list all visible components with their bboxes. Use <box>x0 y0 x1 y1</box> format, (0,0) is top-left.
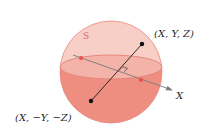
equator-disk <box>60 55 162 79</box>
point-lower-dot <box>89 99 93 103</box>
point-upper-label: (X, Y, Z) <box>154 28 194 39</box>
x-axis-arrow-icon <box>166 86 174 91</box>
axis-intersection-dot-right <box>139 78 143 82</box>
point-lower-label: (X, −Y, −Z) <box>15 112 72 123</box>
point-upper-dot <box>140 42 144 46</box>
axis-intersection-dot-left <box>79 56 83 60</box>
x-axis-label: X <box>175 90 184 101</box>
sphere-label: S <box>83 29 89 41</box>
sphere-reflection-diagram: S (X, Y, Z) (X, −Y, −Z) X <box>0 0 210 133</box>
diagram-canvas: S (X, Y, Z) (X, −Y, −Z) X <box>0 0 210 133</box>
